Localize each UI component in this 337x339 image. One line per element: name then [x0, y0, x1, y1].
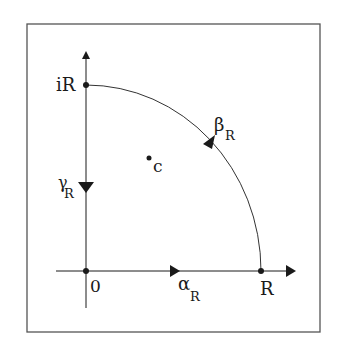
label-beta: β [214, 114, 224, 135]
gamma-direction-arrow-icon [78, 182, 94, 193]
label-beta-subscript: R [225, 128, 236, 143]
contour-diagram: iR 0 R c α R β R γ R [0, 0, 337, 339]
label-alpha: α [178, 273, 190, 294]
label-origin: 0 [90, 276, 101, 296]
point-origin [83, 268, 89, 274]
label-gamma-subscript: R [64, 186, 75, 201]
imaginary-axis-arrow-icon [82, 51, 90, 59]
label-c: c [153, 156, 163, 176]
label-R: R [260, 278, 274, 299]
label-iR: iR [56, 74, 76, 95]
beta-arc [86, 85, 261, 271]
point-iR [83, 82, 89, 88]
label-alpha-subscript: R [190, 289, 201, 304]
beta-direction-arrow-icon [203, 135, 215, 149]
frame [27, 24, 320, 332]
real-axis-arrow-icon [286, 265, 296, 277]
point-R [258, 268, 264, 274]
point-c [147, 156, 152, 161]
